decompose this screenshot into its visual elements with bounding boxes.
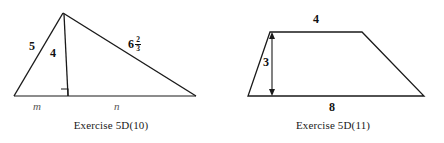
triangle-left-side-label: 5 bbox=[29, 40, 35, 52]
trapezoid-outline bbox=[248, 32, 424, 96]
triangle-altitude-line bbox=[64, 14, 68, 96]
triangle-caption: Exercise 5D(10) bbox=[0, 119, 222, 131]
triangle-right-side-label: 6 2 3 bbox=[128, 36, 141, 52]
figure-sheet: 5 4 6 2 3 m n Exercise 5D(10) 4 3 8 Exer… bbox=[0, 0, 444, 143]
triangle-right-side-fraction: 2 3 bbox=[135, 36, 141, 52]
figure-trapezoid: 4 3 8 Exercise 5D(11) bbox=[222, 0, 444, 143]
trapezoid-height-arrow-head-down bbox=[269, 89, 275, 96]
right-angle-icon bbox=[61, 89, 68, 96]
triangle-base-left-segment-label: m bbox=[33, 101, 41, 112]
triangle-right-side-denominator: 3 bbox=[135, 45, 141, 53]
trapezoid-height-label: 3 bbox=[263, 56, 269, 68]
trapezoid-top-side-label: 4 bbox=[313, 13, 319, 25]
triangle-base-right-segment-label: n bbox=[114, 101, 120, 112]
triangle-right-side-line bbox=[63, 13, 196, 96]
triangle-right-side-whole: 6 bbox=[128, 37, 134, 52]
triangle-altitude-label: 4 bbox=[50, 47, 56, 59]
triangle-right-side-numerator: 2 bbox=[135, 36, 141, 44]
trapezoid-bottom-side-label: 8 bbox=[329, 101, 335, 113]
figure-triangle: 5 4 6 2 3 m n Exercise 5D(10) bbox=[0, 0, 222, 143]
trapezoid-caption: Exercise 5D(11) bbox=[222, 119, 444, 131]
